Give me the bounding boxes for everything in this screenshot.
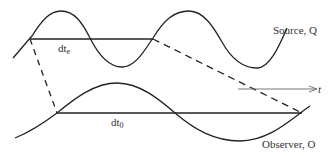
redshift-diagram: dte dt0 Source, Q Observer, O t (0, 0, 335, 157)
observer-interval-label: dt0 (111, 116, 124, 130)
time-axis-label: t (318, 83, 322, 95)
source-label: Source, Q (273, 24, 317, 36)
dashed-connector-start (30, 39, 57, 113)
observer-wave (15, 83, 310, 141)
source-interval-label: dte (58, 42, 71, 56)
observer-label: Observer, O (262, 138, 315, 150)
